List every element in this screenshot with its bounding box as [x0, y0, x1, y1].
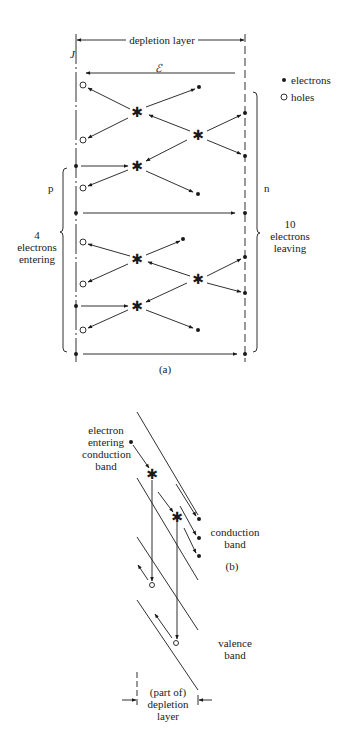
- entering-count: 4: [13, 229, 61, 241]
- svg-text:✱: ✱: [131, 104, 143, 120]
- field-label: ℰ: [155, 62, 162, 74]
- caption-a: (a): [155, 363, 175, 375]
- valence-band-edge-2: [137, 600, 198, 690]
- leaving-line3: leaving: [265, 242, 315, 254]
- valence-band-edge-1: [137, 537, 198, 630]
- svg-text:✱: ✱: [131, 158, 143, 174]
- electrons: [74, 78, 286, 558]
- ionization-stars: ✱✱✱ ✱✱✱ ✱✱: [131, 104, 204, 525]
- right-bracket: [253, 92, 260, 352]
- valence-band-line2: band: [210, 649, 260, 661]
- legend-electrons: electrons: [291, 74, 331, 86]
- depletion-part-line3: layer: [140, 710, 196, 722]
- entering-line2: electrons: [13, 241, 61, 253]
- left-bracket: [60, 168, 67, 352]
- entering-band-line1: electron: [82, 424, 130, 436]
- junction-label: J: [70, 48, 75, 60]
- svg-text:✱: ✱: [171, 509, 183, 525]
- depletion-layer-label: depletion layer: [127, 34, 197, 46]
- entering-band-line3: conduction: [82, 448, 130, 460]
- caption-b: (b): [222, 560, 242, 572]
- conduction-band-edge-2: [137, 478, 198, 580]
- svg-text:✱: ✱: [146, 466, 158, 482]
- svg-text:✱: ✱: [131, 298, 143, 314]
- leaving-line2: electrons: [265, 230, 315, 242]
- leaving-count: 10: [265, 218, 315, 230]
- n-label: n: [264, 182, 270, 194]
- depletion-part-line1: (part of): [140, 686, 196, 698]
- svg-text:✱: ✱: [192, 271, 204, 287]
- depletion-part-line2: depletion: [140, 698, 196, 710]
- entering-line3: entering: [13, 253, 61, 265]
- p-label: p: [48, 182, 54, 194]
- svg-text:✱: ✱: [192, 127, 204, 143]
- valence-band-line1: valence: [210, 637, 260, 649]
- conduction-band-line2: band: [205, 538, 265, 550]
- entering-band-line4: band: [82, 460, 130, 472]
- svg-text:✱: ✱: [131, 251, 143, 267]
- legend-holes: holes: [291, 91, 314, 103]
- entering-band-line2: entering: [82, 436, 130, 448]
- conduction-band-line1: conduction: [205, 526, 265, 538]
- holes: [80, 82, 287, 646]
